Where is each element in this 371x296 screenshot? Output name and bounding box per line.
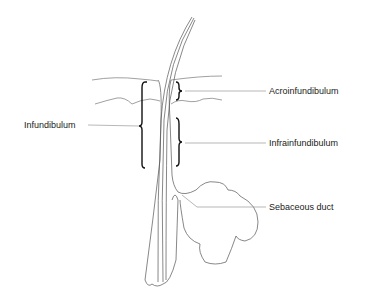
follicle-right-wall: [169, 80, 196, 194]
label-infundibulum: Infundibulum: [24, 121, 76, 130]
infrainfundibulum-bracket[interactable]: [176, 118, 182, 166]
label-infrainfundibulum: Infrainfundibulum: [269, 139, 338, 148]
infundibulum-bracket[interactable]: [139, 82, 147, 168]
sebaceous-duct-leader: [182, 195, 266, 207]
label-acroinfundibulum: Acroinfundibulum: [269, 87, 339, 96]
hair-shaft-line-3: [166, 20, 195, 280]
follicle-diagram: [0, 0, 371, 296]
follicle-lower-right-wall: [152, 195, 178, 286]
label-sebaceous-duct: Sebaceous duct: [269, 203, 334, 212]
acroinfundibulum-bracket[interactable]: [176, 82, 182, 100]
epidermis-top-line-right: [171, 76, 222, 80]
sebaceous-gland: [180, 182, 258, 264]
epidermis-bottom-line: [95, 98, 160, 104]
epidermis-top-line: [92, 78, 158, 81]
infundibulum-leader: [88, 125, 139, 126]
